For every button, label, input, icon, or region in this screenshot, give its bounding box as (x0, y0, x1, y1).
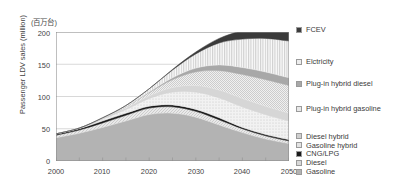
legend-label: Plug-in hybrid gasoline (306, 105, 381, 112)
legend-swatch-icon (296, 81, 302, 87)
legend-item-fcev[interactable]: FCEV (296, 26, 408, 33)
legend-item-plugin-hybrid-diesel[interactable]: Plug-in hybrid diesel (296, 80, 408, 87)
legend-item-diesel[interactable]: Diesel (296, 159, 408, 166)
legend-label: Plug-in hybrid diesel (306, 80, 373, 87)
legend-label: CNG/LPG (306, 150, 339, 157)
legend-label: Elctricity (306, 58, 334, 65)
legend-item-cng-lpg[interactable]: CNG/LPG (296, 150, 408, 157)
legend-item-gasoline[interactable]: Gasoline (296, 168, 408, 175)
legend-swatch-icon (296, 106, 302, 112)
x-tick-2010: 2010 (85, 167, 119, 176)
legend-label: Gasoline hybrid (306, 142, 357, 149)
legend-swatch-icon (296, 59, 302, 65)
y-tick-150: 150 (26, 61, 50, 70)
legend-swatch-icon (296, 27, 302, 33)
plot-area (56, 32, 289, 161)
stacked-area-svg (56, 32, 289, 161)
legend-item-gasoline-hybrid[interactable]: Gasoline hybrid (296, 142, 408, 149)
x-tick-2040: 2040 (225, 167, 259, 176)
legend-swatch-icon (296, 151, 302, 157)
legend-swatch-icon (296, 133, 302, 139)
x-tick-2000: 2000 (39, 167, 73, 176)
y-tick-100: 100 (26, 93, 50, 102)
y-tick-200: 200 (26, 29, 50, 38)
legend-label: FCEV (306, 26, 326, 33)
legend-label: Gasoline (306, 168, 335, 175)
legend-item-diesel-hybrid[interactable]: Diesel hybrid (296, 133, 408, 140)
x-tick-2030: 2030 (179, 167, 213, 176)
legend-item-plugin-hybrid-gasoline[interactable]: Plug-in hybrid gasoline (296, 105, 408, 112)
legend-label: Diesel (306, 159, 327, 166)
chart-root: (百万台) Passenger LDV sales (million) 200 … (0, 0, 408, 192)
x-tick-2020: 2020 (132, 167, 166, 176)
legend-swatch-icon (296, 160, 302, 166)
y-tick-50: 50 (26, 125, 50, 134)
legend-item-electricity[interactable]: Elctricity (296, 58, 408, 65)
legend-label: Diesel hybrid (306, 133, 349, 140)
y-tick-0: 0 (26, 157, 50, 166)
legend-swatch-icon (296, 142, 302, 148)
legend: FCEV Elctricity Plug-in hybrid diesel Pl… (296, 24, 408, 176)
legend-swatch-icon (296, 169, 302, 175)
unit-label: (百万台) (31, 16, 57, 27)
